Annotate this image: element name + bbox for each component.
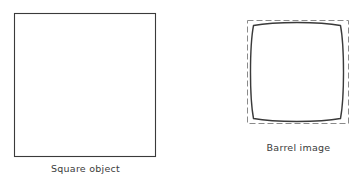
caption-square-object: Square object — [14, 163, 157, 175]
figure-root: Square object Barrel image — [0, 0, 362, 177]
caption-barrel-image: Barrel image — [247, 142, 350, 154]
